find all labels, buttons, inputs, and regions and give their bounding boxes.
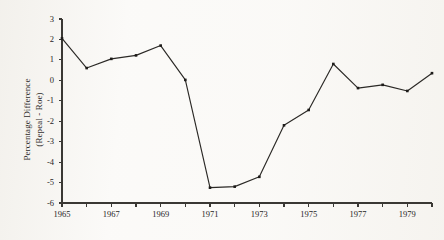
data-point-marker [283, 124, 286, 127]
y-axis-tick-label: 2 [32, 35, 54, 44]
data-point-marker [85, 67, 88, 70]
y-axis-tick-label: 0 [32, 76, 54, 85]
y-axis-tick-label: -6 [32, 199, 54, 208]
y-axis-tick-label: -3 [32, 137, 54, 146]
x-axis-tick-label: 1965 [42, 210, 82, 219]
x-axis-tick-label: 1971 [190, 210, 230, 219]
y-axis-tick-label: -5 [32, 178, 54, 187]
y-axis-title-line-1: Percentage Difference [22, 78, 32, 160]
y-axis-tick-label: -4 [32, 158, 54, 167]
y-axis-tick-label: 1 [32, 55, 54, 64]
data-point-marker [357, 87, 360, 90]
data-point-marker [258, 176, 261, 179]
data-point-marker [406, 90, 409, 93]
data-point-marker [159, 44, 162, 47]
line-chart-plot-area [0, 0, 444, 240]
y-axis-tick-label: -1 [32, 96, 54, 105]
x-axis-tick-label: 1967 [91, 210, 131, 219]
x-axis-tick-label: 1979 [387, 210, 427, 219]
x-axis-tick-label: 1977 [338, 210, 378, 219]
data-point-marker [307, 109, 310, 112]
x-axis-tick-label: 1975 [289, 210, 329, 219]
chart-figure: Percentage Difference (Repeal - Roe) 321… [0, 0, 444, 240]
data-point-marker [61, 37, 64, 40]
data-point-marker [110, 58, 113, 61]
x-axis-tick-label: 1969 [141, 210, 181, 219]
data-point-marker [332, 63, 335, 66]
data-point-marker [233, 185, 236, 188]
y-axis-tick-label: 3 [32, 15, 54, 24]
data-point-marker [135, 54, 138, 57]
data-point-marker [184, 79, 187, 82]
y-axis-tick-label: -2 [32, 117, 54, 126]
data-point-marker [381, 84, 384, 87]
chart-svg [0, 0, 444, 240]
x-axis-tick-label: 1973 [239, 210, 279, 219]
data-point-marker [431, 72, 434, 75]
data-series-line [62, 38, 432, 187]
data-point-marker [209, 186, 212, 189]
